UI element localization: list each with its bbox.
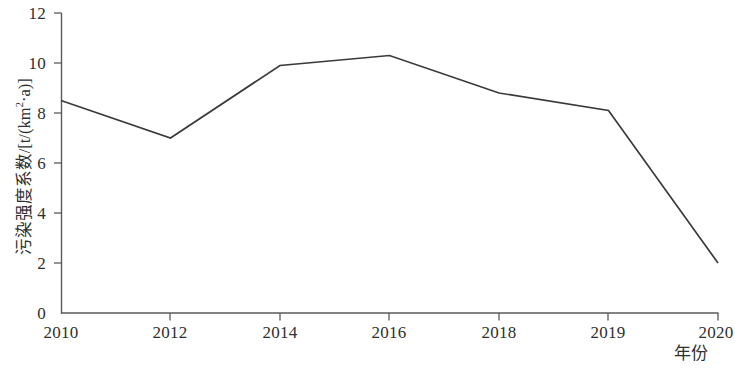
axis-lines bbox=[61, 13, 719, 314]
y-axis-title-tail: ·a)] bbox=[15, 78, 34, 102]
x-axis-title: 年份 bbox=[646, 345, 735, 363]
y-tick-label: 12 bbox=[2, 5, 46, 22]
x-tick-label: 2014 bbox=[235, 324, 325, 341]
y-tick-label: 0 bbox=[2, 305, 46, 322]
x-axis-ticks bbox=[170, 313, 718, 321]
chart-plot-area bbox=[0, 0, 735, 369]
y-axis-title: 污染强度系数/[t/(km2·a)] bbox=[10, 27, 34, 307]
x-tick-label: 2019 bbox=[563, 324, 653, 341]
x-tick-label: 2018 bbox=[454, 324, 544, 341]
y-axis-title-main: 污染强度系数/[t/(km bbox=[15, 108, 34, 256]
x-tick-label: 2020 bbox=[671, 324, 735, 341]
y-axis-title-superscript: 2 bbox=[13, 102, 25, 108]
data-series-line bbox=[61, 56, 718, 264]
x-tick-label: 2012 bbox=[125, 324, 215, 341]
line-chart: 12 10 8 6 4 2 0 2010 2012 2014 2016 2018… bbox=[0, 0, 735, 369]
y-axis-ticks bbox=[54, 13, 62, 263]
x-tick-label: 2010 bbox=[16, 324, 106, 341]
x-tick-label: 2016 bbox=[344, 324, 434, 341]
